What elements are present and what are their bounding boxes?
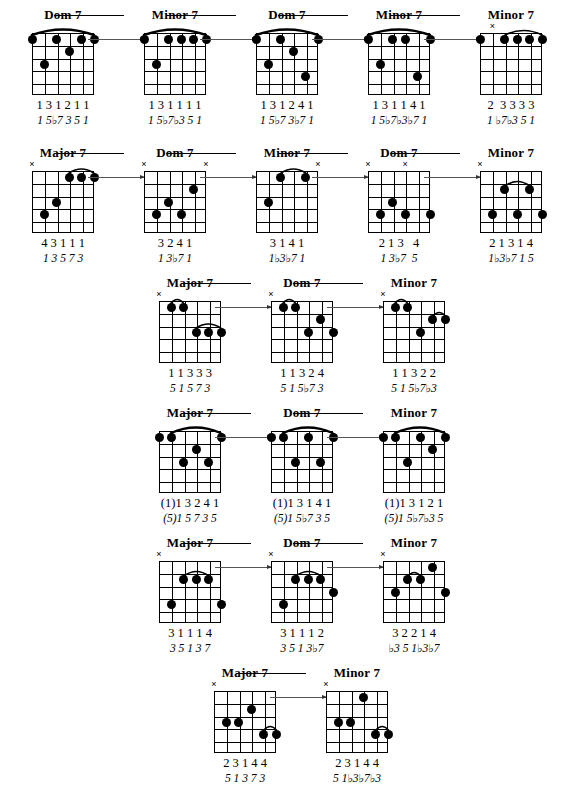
muted-string-marker: × <box>267 290 276 299</box>
fret-dot <box>388 35 397 44</box>
fret-dot <box>189 185 198 194</box>
chord-cell: Dom 7×3 1 1 1 23 5 1 3♭7 <box>247 536 357 664</box>
fret-dot <box>525 185 534 194</box>
muted-string-marker: × <box>488 22 497 31</box>
fret-dot <box>428 315 437 324</box>
row-4: Major 7(1)1 3 2 4 1(5)1 5 7 3 5Dom 7(1)1… <box>0 406 563 536</box>
fret-dot <box>441 315 450 324</box>
fret-dot <box>316 458 325 467</box>
fret-dot <box>289 47 298 56</box>
barre-arc <box>503 27 544 36</box>
fret-dot <box>316 575 325 584</box>
fretboard-overlay: ×× <box>144 171 206 233</box>
fret-dot <box>77 173 86 182</box>
finger-numbers: 1 3 1 1 4 1 <box>344 99 454 112</box>
chord-title: Minor 7 <box>456 8 563 22</box>
row-1: Dom 71 3 1 2 1 11 5♭7 3 5 1Minor 71 3 1 … <box>0 8 563 138</box>
fret-dot <box>391 588 400 597</box>
chord-cell: Minor 7×3 1 4 11♭3♭7 1 <box>232 146 342 274</box>
fret-dot <box>329 588 338 597</box>
fret-dot <box>279 303 288 312</box>
fret-dot <box>304 433 313 442</box>
fret-dot <box>403 303 412 312</box>
fretboard-overlay: × <box>383 301 445 363</box>
finger-numbers: 1 1 3 2 2 <box>359 367 469 380</box>
interval-degrees: 3 5 1 3♭7 <box>247 642 357 654</box>
fret-dot <box>525 35 534 44</box>
fret-dot <box>179 458 188 467</box>
interval-degrees: 1 3♭7 1 <box>120 252 230 264</box>
finger-numbers: 3 1 4 1 <box>232 237 342 250</box>
fret-dot <box>279 600 288 609</box>
fret-dot <box>376 210 385 219</box>
interval-degrees: ♭3 5 1♭3♭7 <box>359 642 469 654</box>
chord-cell: Major 7×2 3 1 4 45 1 3 7 3 <box>190 666 300 786</box>
interval-degrees: 5 1 5♭7♭3 <box>359 382 469 394</box>
finger-numbers: 3 2 2 1 4 <box>359 627 469 640</box>
fret-dot <box>376 60 385 69</box>
finger-numbers: 4 3 1 1 1 <box>8 237 118 250</box>
chord-cell: Minor 7×2 3 1 4 45 1♭3♭7♭3 <box>302 666 412 786</box>
fretboard-overlay <box>144 33 206 95</box>
fret-dot <box>276 173 285 182</box>
interval-degrees: 5 1 5♭7 3 <box>247 382 357 394</box>
fret-dot <box>391 433 400 442</box>
finger-numbers: 1 1 3 2 4 <box>247 367 357 380</box>
fret-dot <box>403 575 412 584</box>
chord-title-connector <box>390 153 460 154</box>
fret-dot <box>364 35 373 44</box>
fret-dot <box>40 60 49 69</box>
chord-cell: Minor 7×2 1 3 1 41♭3♭7 1 5 <box>456 146 563 274</box>
chord-title: Minor 7 <box>359 406 469 420</box>
fret-dot <box>259 730 268 739</box>
chord-title: Minor 7 <box>302 666 412 680</box>
fret-dot <box>413 72 422 81</box>
chord-title-connector <box>166 15 236 16</box>
interval-degrees: (5)1 5♭7 3 5 <box>247 512 357 524</box>
row-2: Major 7×4 3 1 1 11 3 5 7 3Dom 7××3 2 4 1… <box>0 146 563 276</box>
fret-dot <box>222 718 231 727</box>
fret-dot <box>177 210 186 219</box>
chord-cell: Dom 71 3 1 2 4 11 5♭7 3♭7 1 <box>232 8 342 136</box>
fret-dot <box>204 328 213 337</box>
fretboard-overlay: × <box>214 691 276 753</box>
interval-degrees: 5 1 5 7 3 <box>135 382 245 394</box>
interval-degrees: 1 3♭7 5 <box>344 252 454 264</box>
chord-title-connector <box>236 673 306 674</box>
fret-dot <box>416 433 425 442</box>
fret-dot <box>316 315 325 324</box>
chord-cell: Minor 71 3 1 1 4 11 5♭7♭3♭7 1 <box>344 8 454 136</box>
chord-cell: Major 7(1)1 3 2 4 1(5)1 5 7 3 5 <box>135 406 245 534</box>
chord-cell: Minor 71 3 1 1 1 11 5♭7♭3 5 1 <box>120 8 230 136</box>
interval-degrees: 1 ♭7♭3 5 1 <box>456 114 563 126</box>
fret-dot <box>192 575 201 584</box>
chord-title-connector <box>278 153 348 154</box>
fret-dot <box>359 693 368 702</box>
fret-dot <box>252 35 261 44</box>
fret-dot <box>384 730 393 739</box>
muted-string-marker: × <box>267 550 276 559</box>
chord-cell: Minor 7×2 3 3 3 31 ♭7♭3 5 1 <box>456 8 563 136</box>
fret-dot <box>391 303 400 312</box>
interval-degrees: 5 1♭3♭7♭3 <box>302 772 412 784</box>
fret-dot <box>538 210 547 219</box>
fret-dot <box>65 47 74 56</box>
fret-dot <box>77 35 86 44</box>
interval-degrees: 1 3 5 7 3 <box>8 252 118 264</box>
muted-string-marker: × <box>364 160 373 169</box>
finger-numbers: 2 3 3 3 3 <box>456 99 563 112</box>
chord-title-connector <box>181 543 251 544</box>
fret-dot <box>152 60 161 69</box>
interval-degrees: (5)1 5 7 3 5 <box>135 512 245 524</box>
fretboard-overlay: × <box>159 301 221 363</box>
fret-dot <box>234 718 243 727</box>
fret-dot <box>276 35 285 44</box>
fretboard-overlay: × <box>271 561 333 623</box>
fret-dot <box>192 328 201 337</box>
finger-numbers: 2 1 3 1 4 <box>456 237 563 250</box>
fret-dot <box>264 198 273 207</box>
finger-numbers: 1 3 1 2 4 1 <box>232 99 342 112</box>
chord-cell: Minor 7×3 2 2 1 4♭3 5 1♭3♭7 <box>359 536 469 664</box>
barre-arc <box>169 423 223 434</box>
fret-dot <box>272 730 281 739</box>
